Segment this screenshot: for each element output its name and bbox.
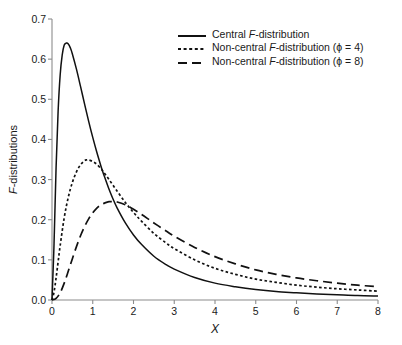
x-axis-title: X <box>52 322 378 336</box>
series-paths <box>52 43 378 300</box>
y-tick-label: 0.1 <box>12 255 46 265</box>
y-tick-marks <box>48 19 52 300</box>
y-tick-label-group: 0.00.10.20.30.40.50.60.7 <box>8 19 46 300</box>
legend-item-2[interactable]: Non-central F-distribution (ϕ = 4) <box>178 41 388 55</box>
legend-label-2: Non-central F-distribution (ϕ = 4) <box>212 41 364 53</box>
legend-item-3[interactable]: Non-central F-distribution (ϕ = 8) <box>178 54 388 68</box>
y-tick-label: 0.7 <box>12 14 46 24</box>
legend-label-1: Central F-distribution <box>212 28 309 40</box>
y-tick-label: 0.5 <box>12 94 46 104</box>
x-tick-label: 0 <box>37 305 67 317</box>
y-tick-label: 0.2 <box>12 215 46 225</box>
legend-swatch-solid <box>178 28 206 40</box>
x-tick-label: 4 <box>200 305 230 317</box>
x-tick-marks <box>52 300 378 304</box>
y-tick-label: 0.0 <box>12 295 46 305</box>
series-line-3 <box>52 202 378 300</box>
legend: Central F-distributionNon-central F-dist… <box>178 27 388 68</box>
legend-swatch-dashed <box>178 55 206 67</box>
x-tick-label: 1 <box>78 305 108 317</box>
x-tick-label: 6 <box>282 305 312 317</box>
series-line-1 <box>52 43 378 300</box>
legend-label-suffix: -distribution (ϕ = 8) <box>276 55 364 67</box>
y-tick-label: 0.6 <box>12 54 46 64</box>
legend-item-1[interactable]: Central F-distribution <box>178 27 388 41</box>
x-tick-label-group: 012345678 <box>52 305 378 321</box>
x-tick-label: 3 <box>159 305 189 317</box>
legend-label-prefix: Non-central <box>212 55 269 67</box>
series-line-2 <box>52 160 378 300</box>
x-tick-label: 5 <box>241 305 271 317</box>
legend-swatch-dotted <box>178 41 206 53</box>
legend-label-3: Non-central F-distribution (ϕ = 8) <box>212 55 364 67</box>
x-tick-label: 2 <box>119 305 149 317</box>
x-tick-label: 7 <box>322 305 352 317</box>
figure-f-distributions: F-distributions 0.00.10.20.30.40.50.60.7… <box>0 0 402 345</box>
x-tick-label: 8 <box>363 305 393 317</box>
y-tick-label: 0.3 <box>12 175 46 185</box>
x-axis-title-italic-part: X <box>211 322 219 336</box>
legend-label-prefix: Central <box>212 28 249 40</box>
legend-label-prefix: Non-central <box>212 41 269 53</box>
y-tick-label: 0.4 <box>12 134 46 144</box>
legend-label-suffix: -distribution <box>255 28 309 40</box>
legend-label-suffix: -distribution (ϕ = 4) <box>276 41 364 53</box>
